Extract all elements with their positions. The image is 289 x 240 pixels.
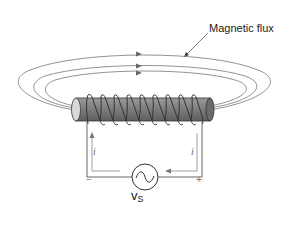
source-voltage-subscript: S — [138, 194, 144, 204]
source-voltage-label: vS — [131, 188, 144, 204]
current-label-right: i — [191, 146, 194, 157]
flux-pointer — [186, 33, 208, 55]
magnetic-flux-label: Magnetic flux — [209, 22, 274, 34]
minus-terminal-label: − — [86, 174, 92, 185]
current-arrow-up-icon — [90, 132, 95, 138]
ac-source — [132, 164, 158, 190]
plus-terminal-label: + — [196, 174, 202, 185]
current-arrow-left-icon — [165, 169, 171, 174]
current-label-left: i — [93, 146, 96, 157]
